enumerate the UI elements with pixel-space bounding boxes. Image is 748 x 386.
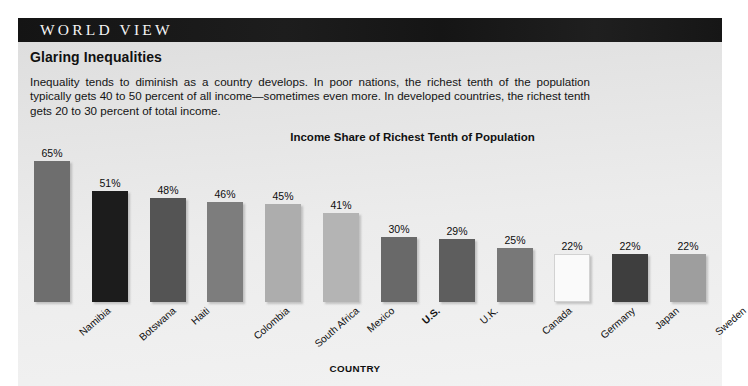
x-axis-label-botswana: Botswana bbox=[137, 305, 178, 343]
bar[interactable] bbox=[439, 239, 475, 302]
x-axis-label-haiti: Haiti bbox=[189, 305, 212, 327]
bar[interactable] bbox=[612, 254, 648, 302]
chart-title: Income Share of Richest Tenth of Populat… bbox=[0, 131, 735, 143]
bar[interactable] bbox=[207, 202, 243, 302]
x-axis-category-labels: NamibiaBotswanaHaitiColombiaSouth Africa… bbox=[34, 303, 706, 361]
x-axis-label-canada: Canada bbox=[540, 305, 574, 337]
bar-chart-plot-area: 65%51%48%46%45%41%30%29%25%22%22%22% bbox=[34, 150, 706, 302]
bar-value-label: 22% bbox=[606, 240, 654, 252]
bar[interactable] bbox=[150, 198, 186, 302]
x-axis-label-south-africa: South Africa bbox=[312, 305, 361, 349]
masthead-title: WORLD VIEW bbox=[40, 21, 173, 39]
x-axis-title: COUNTRY bbox=[0, 363, 735, 374]
bar-value-label: 29% bbox=[433, 225, 481, 237]
x-axis-label-germany: Germany bbox=[598, 305, 637, 341]
bar-value-label: 41% bbox=[317, 199, 365, 211]
x-axis-label-u-k: U.K. bbox=[478, 305, 500, 326]
x-axis-label-japan: Japan bbox=[653, 305, 681, 332]
bar[interactable] bbox=[554, 254, 590, 302]
bar-value-label: 65% bbox=[28, 147, 76, 159]
article-headline: Glaring Inequalities bbox=[30, 49, 162, 65]
bar-value-label: 45% bbox=[259, 190, 307, 202]
article-body-text: Inequality tends to diminish as a countr… bbox=[30, 75, 590, 118]
x-axis-label-colombia: Colombia bbox=[252, 305, 292, 342]
bar-value-label: 51% bbox=[86, 177, 134, 189]
x-axis-label-namibia: Namibia bbox=[77, 305, 112, 338]
bar[interactable] bbox=[670, 254, 706, 302]
bar[interactable] bbox=[92, 191, 128, 302]
bar-value-label: 22% bbox=[664, 240, 712, 252]
masthead-bar: WORLD VIEW bbox=[18, 18, 722, 42]
bar-value-label: 30% bbox=[375, 223, 423, 235]
bar-value-label: 25% bbox=[491, 234, 539, 246]
bar[interactable] bbox=[497, 248, 533, 302]
bar-value-label: 22% bbox=[548, 240, 596, 252]
x-axis-label-u-s: U.S. bbox=[420, 305, 442, 326]
bar[interactable] bbox=[265, 204, 301, 302]
bar[interactable] bbox=[34, 161, 70, 302]
bar-value-label: 48% bbox=[144, 184, 192, 196]
bar-value-label: 46% bbox=[201, 188, 249, 200]
bar[interactable] bbox=[381, 237, 417, 302]
x-axis-label-mexico: Mexico bbox=[365, 305, 397, 334]
bar[interactable] bbox=[323, 213, 359, 302]
